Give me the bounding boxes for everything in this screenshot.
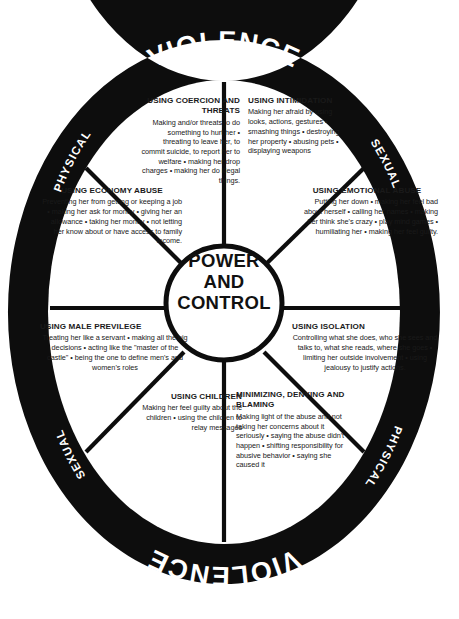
segment-using-isolation: USING ISOLATION Controlling what she doe… — [292, 322, 438, 372]
segment-body: Treating her like a servant • making all… — [40, 333, 190, 372]
segment-using-emotional-abuse: USING EMOTIONAL ABUSE Putting her down •… — [296, 186, 438, 236]
segment-using-intimidation: USING INTIMIDATION Making her afraid by … — [248, 96, 350, 156]
hub-line-control: CONTROL — [174, 292, 274, 313]
hub-line-and: AND — [174, 271, 274, 292]
hub-label: POWER AND CONTROL — [174, 250, 274, 313]
segment-body: Controlling what she does, who she sees … — [292, 333, 438, 372]
segment-body: Making light of the abuse and not taking… — [236, 412, 354, 470]
segment-body: Making and/or threats to do something to… — [140, 118, 240, 186]
segment-minimizing-denying-and-blaming: MINIMIZING, DENYING AND BLAMING Making l… — [236, 390, 354, 470]
segment-heading: USING ISOLATION — [292, 322, 438, 332]
power-and-control-wheel: VIOLENCE PHYSICAL SEXUAL VIOLENCE PHYSIC… — [0, 0, 459, 619]
segment-heading: MINIMIZING, DENYING AND BLAMING — [236, 390, 354, 411]
segment-heading: USING INTIMIDATION — [248, 96, 350, 106]
hub-line-power: POWER — [174, 250, 274, 271]
segment-body: Putting her down • making her feel bad a… — [296, 197, 438, 236]
segment-heading: USING EMOTIONAL ABUSE — [296, 186, 438, 196]
segment-using-children: USING CHILDREN Making her feel guilty ab… — [132, 392, 242, 433]
segment-body: Preventing her from getting or keeping a… — [42, 197, 182, 246]
segment-body: Making her feel guilty about the childre… — [132, 403, 242, 432]
segment-using-economy-abuse: USING ECONOMY ABUSE Preventing her from … — [42, 186, 182, 246]
segment-using-male-privilege: USING MALE PREVILEGE Treating her like a… — [40, 322, 190, 372]
segment-heading: USING CHILDREN — [132, 392, 242, 402]
segment-heading: USING MALE PREVILEGE — [40, 322, 190, 332]
segment-body: Making her afraid by using looks, action… — [248, 107, 350, 156]
segment-heading: USING ECONOMY ABUSE — [42, 186, 182, 196]
segment-heading: USING COERCION AND THREATS — [140, 96, 240, 117]
segment-using-coercion-and-threats: USING COERCION AND THREATS Making and/or… — [140, 96, 240, 186]
